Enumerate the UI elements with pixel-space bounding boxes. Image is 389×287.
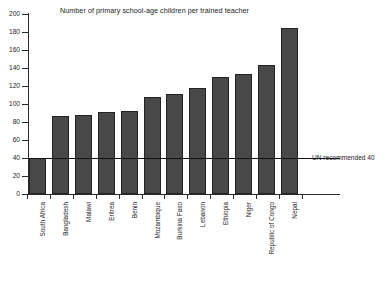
y-axis-tick-label: 100 (2, 101, 20, 108)
bar (235, 74, 252, 194)
y-axis-tick (22, 68, 28, 69)
y-axis-tick (22, 32, 28, 33)
y-axis-tick-label: 40 (2, 155, 20, 162)
bar-chart: Number of primary school-age children pe… (0, 0, 389, 287)
x-axis-label: Malawi (86, 202, 92, 222)
x-axis-label: South Africa (40, 202, 46, 236)
y-axis-tick-label: 180 (2, 29, 20, 36)
x-axis-tick (119, 195, 120, 199)
x-axis-tick (142, 195, 143, 199)
y-axis-tick (22, 122, 28, 123)
x-axis-tick (210, 195, 211, 199)
x-axis-tick (96, 195, 97, 199)
chart-title: Number of primary school-age children pe… (60, 6, 249, 15)
x-axis-tick (164, 195, 165, 199)
x-axis-line (28, 194, 340, 195)
x-axis-label: Republic of Congo (269, 202, 275, 255)
y-axis-tick (22, 86, 28, 87)
x-axis-tick (279, 195, 280, 199)
un-recommended-line (28, 158, 340, 159)
x-axis-label: Lebanon (200, 202, 206, 227)
bar (29, 158, 46, 194)
x-axis-label: Niger (246, 202, 252, 217)
bar (98, 112, 115, 194)
x-axis-label: Ethiopia (223, 202, 229, 225)
x-axis-label: Benin (132, 202, 138, 218)
bar (212, 77, 229, 194)
y-axis-tick (22, 50, 28, 51)
un-recommended-line-label: UN recommended 40 (312, 154, 375, 161)
x-axis-label: Eritrea (109, 202, 115, 221)
x-axis-label: Nepal (292, 202, 298, 219)
bar (189, 88, 206, 194)
bar (258, 65, 275, 194)
y-axis-tick (22, 104, 28, 105)
x-axis-tick (256, 195, 257, 199)
y-axis-tick-label: 200 (2, 11, 20, 18)
x-axis-tick (50, 195, 51, 199)
x-axis-tick (187, 195, 188, 199)
x-axis-label: Bangladesh (63, 202, 69, 236)
y-axis-tick (22, 176, 28, 177)
y-axis-tick-label: 20 (2, 173, 20, 180)
y-axis-tick-label: 0 (2, 191, 20, 198)
bar (144, 97, 161, 194)
bar (121, 111, 138, 194)
x-axis-label: Mozambique (155, 202, 161, 239)
x-axis-tick (302, 195, 303, 199)
y-axis-tick-label: 140 (2, 65, 20, 72)
bar (166, 94, 183, 194)
x-axis-tick (27, 195, 28, 199)
bar (281, 28, 298, 194)
y-axis-tick-label: 60 (2, 137, 20, 144)
x-axis-tick (233, 195, 234, 199)
y-axis-tick-label: 80 (2, 119, 20, 126)
y-axis-tick (22, 140, 28, 141)
bar (75, 115, 92, 194)
x-axis-label: Burkina Faso (177, 202, 183, 240)
bar (52, 116, 69, 194)
x-axis-tick (73, 195, 74, 199)
y-axis-tick (22, 14, 28, 15)
y-axis-tick-label: 120 (2, 83, 20, 90)
y-axis-tick-label: 160 (2, 47, 20, 54)
